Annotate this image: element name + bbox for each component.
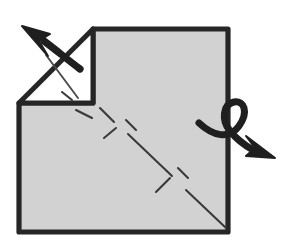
origami-illustration xyxy=(0,0,286,243)
origami-diagram: Origami fold step diagram Hand-drawn squ… xyxy=(0,0,286,243)
